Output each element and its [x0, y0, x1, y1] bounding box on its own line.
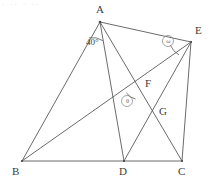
vertex-label-A: A	[96, 4, 104, 15]
vertex-label-G: G	[159, 106, 167, 117]
vertex-label-E: E	[195, 25, 202, 36]
segment-ED	[124, 42, 191, 161]
vertex-label-D: D	[119, 166, 127, 177]
segment-EC	[182, 42, 191, 161]
vertex-label-C: C	[178, 166, 185, 177]
geometry-figure: · ·· · ·· A E B D C F G 40° ω	[0, 0, 213, 185]
segment-AE	[100, 22, 191, 42]
vertex-dot-D	[123, 160, 125, 162]
angle-label-at-A: 40°	[86, 38, 99, 47]
vertex-dot-E	[190, 41, 192, 43]
vertex-label-B: B	[12, 166, 19, 177]
angle-symbol-at-E: ω	[165, 38, 172, 45]
angle-symbol-interior: θ	[124, 98, 131, 105]
vertex-dot-B	[21, 160, 23, 162]
vertex-label-F: F	[145, 78, 151, 89]
vertex-dot-C	[181, 160, 183, 162]
geometry-canvas	[0, 0, 213, 185]
vertex-dot-A	[99, 21, 102, 24]
